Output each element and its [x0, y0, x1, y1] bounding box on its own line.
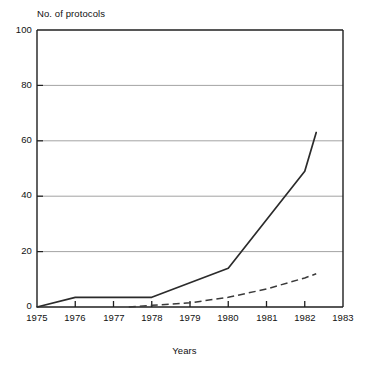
plot-frame: [37, 30, 343, 307]
chart-figure: No. of protocols 100 80 60 40 20 0 1975 …: [0, 0, 369, 375]
gridlines: [37, 85, 343, 251]
x-axis-ticks: [75, 301, 305, 307]
x-tick-label-1980: 1980: [208, 312, 248, 323]
y-axis-ticks: [37, 85, 43, 251]
cropped-caption-text: [8, 367, 338, 375]
y-tick-label-100: 100: [2, 24, 32, 35]
y-tick-label-20: 20: [2, 245, 32, 256]
data-series-group: [37, 132, 316, 307]
x-axis-title: Years: [0, 345, 369, 356]
x-tick-label-1981: 1981: [247, 312, 287, 323]
series-solid-line: [37, 132, 316, 307]
x-tick-label-1977: 1977: [94, 312, 134, 323]
x-tick-label-1982: 1982: [285, 312, 325, 323]
x-tick-label-1979: 1979: [170, 312, 210, 323]
x-tick-label-1978: 1978: [132, 312, 172, 323]
y-tick-label-40: 40: [2, 189, 32, 200]
x-tick-label-1976: 1976: [55, 312, 95, 323]
y-tick-label-0: 0: [2, 300, 32, 311]
y-tick-label-60: 60: [2, 134, 32, 145]
series-dashed-line: [129, 274, 316, 307]
x-tick-label-1975: 1975: [17, 312, 57, 323]
y-tick-label-80: 80: [2, 79, 32, 90]
y-axis-title: No. of protocols: [37, 8, 105, 19]
x-tick-label-1983: 1983: [323, 312, 363, 323]
